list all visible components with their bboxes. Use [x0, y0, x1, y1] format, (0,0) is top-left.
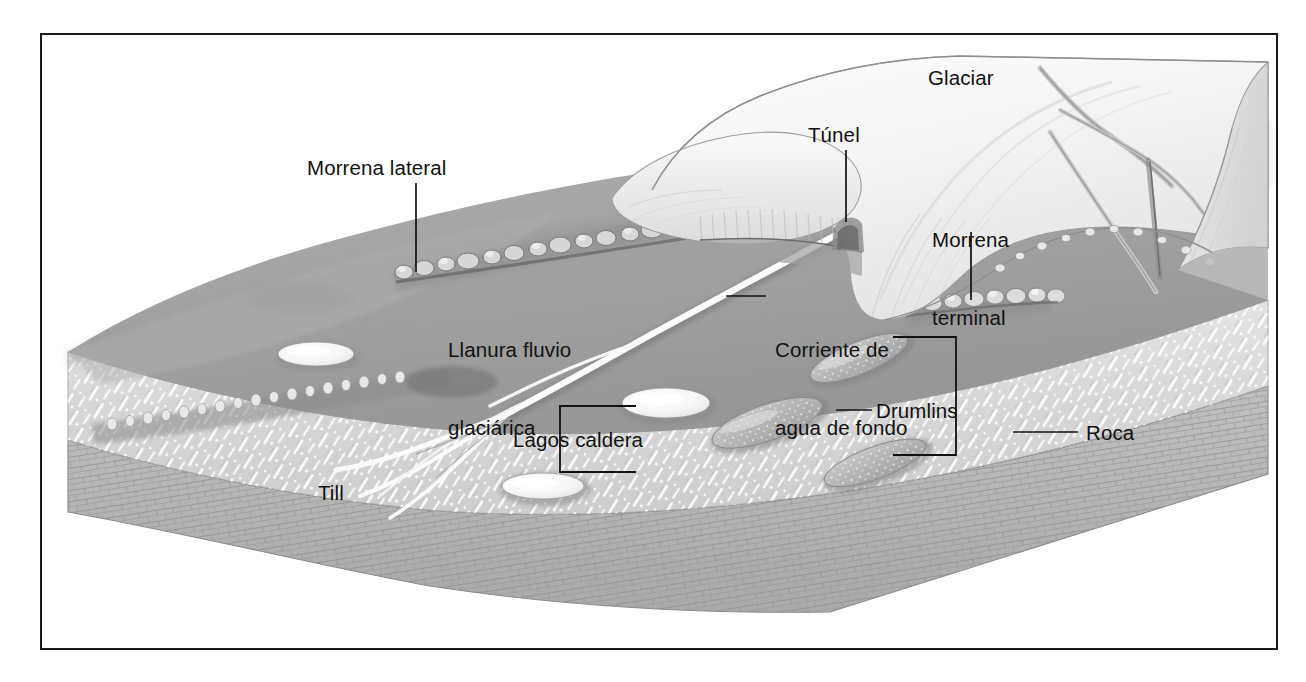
label-morrena-terminal-line1: Morrena: [932, 227, 1009, 253]
glacier-block-diagram: [0, 0, 1306, 682]
label-roca: Roca: [1086, 420, 1134, 445]
label-drumlins: Drumlins: [876, 398, 958, 423]
label-corriente-line1: Corriente de: [775, 337, 907, 363]
label-glaciar: Glaciar: [928, 65, 994, 90]
figure-container: Morrena lateral Glaciar Túnel Morrena te…: [0, 0, 1306, 682]
label-tunel: Túnel: [808, 122, 860, 147]
kettle-lake-left: [276, 342, 360, 372]
label-morrena-lateral: Morrena lateral: [307, 155, 446, 180]
label-till: Till: [318, 480, 344, 505]
label-corriente-de-agua-de-fondo: Corriente de agua de fondo: [775, 285, 907, 493]
label-llanura-fluvio-glaciarica: Llanura fluvio glaciárica: [448, 285, 571, 493]
label-morrena-terminal-line2: terminal: [932, 305, 1009, 331]
label-llanura-line1: Llanura fluvio: [448, 337, 571, 363]
label-lagos-caldera: Lagos caldera: [513, 427, 643, 452]
label-morrena-terminal: Morrena terminal: [932, 175, 1009, 383]
